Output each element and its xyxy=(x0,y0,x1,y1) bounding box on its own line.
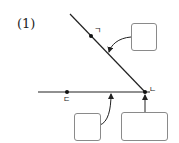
point-digeut xyxy=(65,90,69,94)
arrow-to-horizontal xyxy=(100,94,111,125)
point-nieun xyxy=(143,90,147,94)
arrow-to-diagonal xyxy=(109,37,131,52)
label-digeut: ㄷ xyxy=(63,96,70,104)
answer-box-point[interactable] xyxy=(121,112,168,141)
answer-box-horizontal[interactable] xyxy=(74,113,101,141)
point-giyeok xyxy=(89,34,93,38)
label-giyeok: ㄱ xyxy=(94,27,101,35)
answer-box-diagonal[interactable] xyxy=(131,23,157,51)
label-nieun: ㄴ xyxy=(149,86,156,94)
